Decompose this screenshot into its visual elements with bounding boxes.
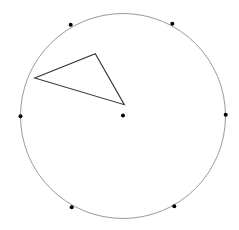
perimeter-dot [19, 114, 23, 118]
diagram-canvas [0, 0, 239, 230]
perimeter-dot [224, 113, 228, 117]
perimeter-dot [69, 23, 73, 27]
perimeter-dot [172, 204, 176, 208]
triangle-shape [35, 54, 125, 105]
center-dot [121, 114, 125, 118]
perimeter-dot [70, 205, 74, 209]
perimeter-dot [170, 22, 174, 26]
